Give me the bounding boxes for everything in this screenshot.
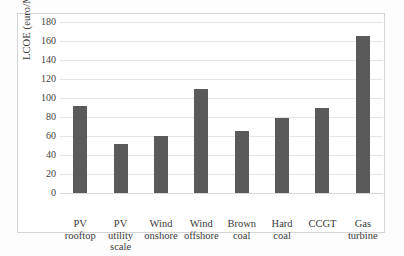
bar xyxy=(154,136,168,193)
x-axis-category-label: PV utility scale xyxy=(100,218,140,253)
bar xyxy=(356,36,370,193)
x-axis-category-label: Brown coal xyxy=(222,218,262,241)
x-axis-category-label: Wind offshore xyxy=(181,218,221,241)
bar xyxy=(114,144,128,193)
x-axis-category-label: Wind onshore xyxy=(141,218,181,241)
y-axis-tick-label: 100 xyxy=(26,93,56,103)
y-axis-tick-label: 40 xyxy=(26,150,56,160)
x-axis-category-label: CCGT xyxy=(302,218,342,230)
y-axis-tick-labels: 180160140120100806040200 xyxy=(22,0,56,220)
gridline xyxy=(60,193,383,194)
plot-area: PV rooftopPV utility scaleWind onshoreWi… xyxy=(60,22,383,193)
gridline xyxy=(60,98,383,99)
x-axis-category-label: Hard coal xyxy=(262,218,302,241)
gridline xyxy=(60,174,383,175)
gridline xyxy=(60,79,383,80)
y-axis-tick-label: 60 xyxy=(26,131,56,141)
gridline xyxy=(60,117,383,118)
gridline xyxy=(60,41,383,42)
x-axis-category-label: PV rooftop xyxy=(60,218,100,241)
bar xyxy=(235,131,249,193)
bar xyxy=(315,108,329,193)
y-axis-tick-label: 0 xyxy=(26,188,56,198)
y-axis-tick-label: 180 xyxy=(26,17,56,27)
gridline xyxy=(60,60,383,61)
y-axis-tick-label: 20 xyxy=(26,169,56,179)
y-axis-tick-label: 160 xyxy=(26,36,56,46)
y-axis-tick-label: 80 xyxy=(26,112,56,122)
bar xyxy=(73,106,87,193)
y-axis-tick-label: 140 xyxy=(26,55,56,65)
gridline xyxy=(60,155,383,156)
chart-figure: LCOE (euro/MWh) 180160140120100806040200… xyxy=(0,0,404,256)
bar xyxy=(194,89,208,194)
gridline xyxy=(60,22,383,23)
gridline xyxy=(60,136,383,137)
y-axis-tick-label: 120 xyxy=(26,74,56,84)
bar xyxy=(275,118,289,193)
x-axis-category-label: Gas turbine xyxy=(343,218,383,241)
